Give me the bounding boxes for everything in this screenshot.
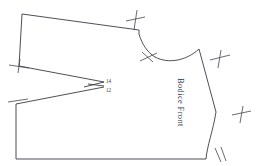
center-front-edge	[19, 14, 22, 66]
piece-label: Bodice Front	[176, 78, 185, 127]
notch-hem-right-icon	[215, 147, 226, 162]
notch-side-seam-icon	[232, 106, 251, 123]
notch-underarm-left-icon	[8, 99, 28, 102]
dart-upper-leg	[19, 66, 104, 82]
notch-shoulder-top-icon	[126, 10, 145, 30]
pattern-drawing: Bodice Front 14 12	[0, 0, 256, 166]
notch-shoulder-right-icon	[210, 50, 230, 68]
pattern-sheet: Bodice Front 14 12	[0, 0, 256, 166]
bodice-outline	[16, 14, 216, 159]
dart-lower-leg	[16, 87, 104, 104]
size-label-upper: 14	[106, 78, 112, 84]
size-label-lower: 12	[106, 87, 112, 93]
